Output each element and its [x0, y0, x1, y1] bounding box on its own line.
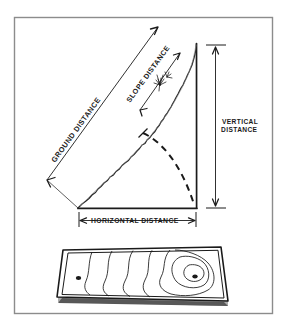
horizontal-distance-label: HORIZONTAL DISTANCE — [91, 217, 179, 224]
summit-point-right — [192, 275, 197, 279]
surveying-diagram: GROUND DISTANCE SLOPE DISTANCE VERTICAL … — [0, 0, 297, 335]
contour-map-plate — [57, 247, 228, 306]
vertical-distance-label-line1: VERTICAL — [222, 118, 258, 125]
station-point-left — [76, 276, 81, 280]
vertical-distance-label-line2: DISTANCE — [221, 126, 258, 133]
figure-root: GROUND DISTANCE SLOPE DISTANCE VERTICAL … — [0, 0, 297, 335]
